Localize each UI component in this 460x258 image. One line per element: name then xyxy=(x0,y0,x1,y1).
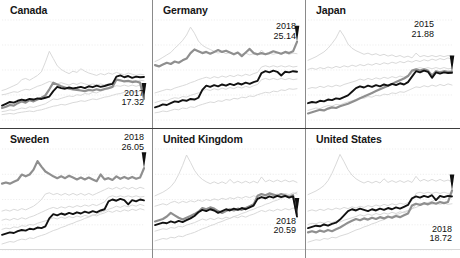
plot-area-canada xyxy=(0,0,152,128)
figure-baseline xyxy=(0,249,460,250)
annotation-united-states: 2018 18.72 xyxy=(429,225,452,244)
plot-area-germany xyxy=(153,0,305,128)
panel-japan: Japan 2015 21.88 xyxy=(306,0,460,128)
sparkline-japan xyxy=(306,0,460,128)
column-divider-left xyxy=(152,0,153,258)
annotation-canada: 2017 17.32 xyxy=(121,89,144,108)
panel-germany: Germany 2018 25.14 xyxy=(153,0,305,128)
panel-title-japan: Japan xyxy=(316,4,346,16)
annotation-japan: 2015 21.88 xyxy=(411,20,434,39)
annotation-value: 17.32 xyxy=(121,98,144,108)
panel-title-united-states: United States xyxy=(316,133,382,145)
panel-united-states: United States 2018 18.72 xyxy=(306,129,460,258)
plot-area-japan xyxy=(306,0,460,128)
panel-united-kingdom: United Kingdom 2018 20.59 xyxy=(153,129,305,258)
column-divider-right xyxy=(305,0,306,258)
panel-title-germany: Germany xyxy=(163,4,208,16)
panel-sweden: Sweden 2018 26.05 xyxy=(0,129,152,258)
panel-canada: Canada 2017 17.32 xyxy=(0,0,152,128)
annotation-value: 21.88 xyxy=(411,30,434,40)
annotation-sweden: 2018 26.05 xyxy=(121,133,144,152)
annotation-value: 26.05 xyxy=(121,143,144,153)
sparkline-united-kingdom xyxy=(153,129,305,258)
annotation-value: 25.14 xyxy=(273,32,296,42)
annotation-value: 18.72 xyxy=(429,234,452,244)
annotation-value: 20.59 xyxy=(273,226,296,236)
sparkline-germany xyxy=(153,0,305,128)
plot-area-united-kingdom xyxy=(153,129,305,258)
panel-title-canada: Canada xyxy=(10,4,47,16)
annotation-united-kingdom: 2018 20.59 xyxy=(273,217,296,236)
panel-title-united-kingdom: United Kingdom xyxy=(163,133,243,145)
small-multiples-figure: Canada 2017 17.32 Germany 2018 25.14 Jap… xyxy=(0,0,460,258)
panel-title-sweden: Sweden xyxy=(10,133,49,145)
row-divider xyxy=(0,128,460,129)
sparkline-canada xyxy=(0,0,152,128)
annotation-germany: 2018 25.14 xyxy=(273,22,296,41)
